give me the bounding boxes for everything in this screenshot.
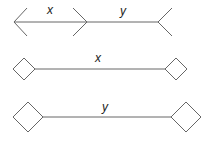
right-fins bbox=[158, 8, 172, 36]
label-x: x bbox=[94, 51, 102, 65]
row-1-arrow-figure: x y bbox=[14, 3, 172, 36]
row-3-diamond-figure: y bbox=[13, 100, 201, 132]
row-2-diamond-figure: x bbox=[13, 51, 187, 80]
label-x: x bbox=[46, 3, 54, 17]
right-diamond bbox=[165, 58, 187, 80]
left-diamond bbox=[13, 102, 43, 132]
left-diamond bbox=[13, 58, 35, 80]
label-y: y bbox=[119, 4, 127, 18]
label-y: y bbox=[101, 100, 109, 114]
illusion-diagram: x y x y bbox=[0, 0, 211, 143]
right-diamond bbox=[171, 102, 201, 132]
